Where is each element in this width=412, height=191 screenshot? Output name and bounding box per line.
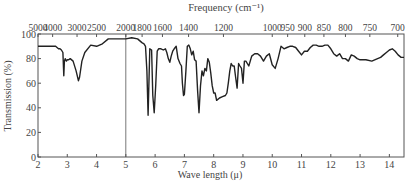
y-tick-label: 60 (26, 78, 36, 89)
x-axis-title: Wave length (μ) (178, 169, 243, 181)
y-axis-title: Transmission (%) (2, 60, 14, 131)
plot-frame (38, 34, 404, 157)
top-tick-label: 750 (363, 23, 378, 33)
top-tick-label: 1400 (179, 23, 198, 33)
top-tick-label: 850 (317, 23, 332, 33)
x-axis-ticks: 234567891011121314 (36, 154, 395, 170)
top-tick-label: 1000 (263, 23, 282, 33)
top-tick-label: 700 (391, 23, 406, 33)
top-tick-label: 1800 (133, 23, 152, 33)
top-tick-label: 950 (281, 23, 296, 33)
top-tick-label: 900 (298, 23, 313, 33)
top-tick-label: 4000 (43, 23, 62, 33)
x-tick-label: 10 (267, 159, 277, 170)
ir-spectrum-chart: Frequency (cm⁻¹) 50004000300025002000180… (0, 0, 412, 191)
x-tick-label: 14 (384, 159, 394, 170)
x-tick-label: 2 (36, 159, 41, 170)
x-tick-label: 3 (65, 159, 70, 170)
x-tick-label: 13 (355, 159, 365, 170)
x-tick-label: 4 (94, 159, 99, 170)
y-tick-label: 40 (26, 102, 36, 113)
top-tick-label: 2500 (87, 23, 106, 33)
spectrum-line (38, 38, 404, 116)
top-tick-label: 3000 (68, 23, 87, 33)
top-tick-label: 800 (338, 23, 353, 33)
top-axis-ticks: 5000400030002500200018001600140012001000… (29, 23, 406, 37)
x-tick-label: 11 (297, 159, 307, 170)
x-tick-label: 12 (326, 159, 336, 170)
x-tick-label: 5 (123, 159, 128, 170)
top-tick-label: 1600 (153, 23, 172, 33)
y-tick-label: 80 (26, 53, 36, 64)
top-tick-label: 1200 (214, 23, 233, 33)
y-tick-label: 100 (21, 29, 36, 40)
x-tick-label: 6 (153, 159, 158, 170)
y-tick-label: 20 (26, 127, 36, 138)
top-axis-title: Frequency (cm⁻¹) (188, 2, 264, 14)
